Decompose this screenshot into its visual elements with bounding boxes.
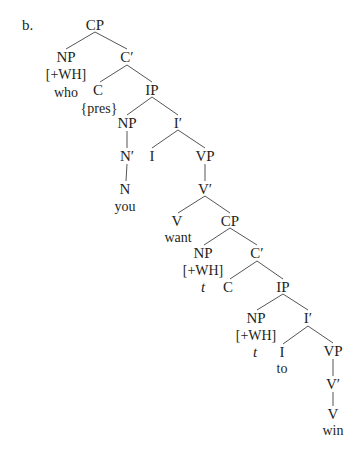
tree-branch [127,97,152,115]
tree-node-you: you [115,200,136,214]
tree-node-vp2: VP [323,344,342,359]
tree-node-win: win [323,424,344,438]
tree-node-ibar2: I′ [304,311,312,326]
tree-branch [178,196,205,213]
tree-node-wh1: [+WH] [46,68,87,82]
tree-node-nbar: N′ [120,149,134,164]
tree-node-ip2: IP [276,280,289,295]
tree-node-cbar1: C′ [120,50,133,65]
tree-node-np1: NP [56,50,75,65]
tree-node-np4: NP [246,311,265,326]
tree-branch [257,294,283,310]
tree-branch [127,65,152,82]
tree-node-vbar1: V′ [198,182,212,197]
tree-node-wh2: [+WH] [183,264,224,278]
tree-node-pres: {pres} [81,102,118,116]
tree-node-v2: V [328,407,339,422]
tree-node-vp1: VP [195,149,214,164]
tree-node-cp1: CP [86,18,104,33]
tree-node-t2: t [253,345,257,360]
tree-node-ip1: IP [145,83,158,98]
tree-branch [100,65,127,82]
tree-node-cp2: CP [221,214,239,229]
tree-branch [308,326,333,343]
tree-branch [205,196,230,213]
tree-node-ibar1: I′ [174,116,182,131]
tree-node-i1: I [150,149,155,164]
tree-node-n: N [120,182,131,197]
tree-node-to: to [277,362,288,376]
tree-branch [95,32,127,49]
tree-branch [152,130,178,148]
tree-node-t1: t [201,280,205,295]
tree-branch [283,294,308,310]
tree-branch [66,32,95,49]
tree-node-cbar2: C′ [250,246,263,261]
tree-node-np3: NP [193,246,212,261]
tree-node-vbar2: V′ [326,377,340,392]
tree-branch [152,97,178,115]
tree-node-c1: C [93,83,103,98]
tree-branch [230,261,257,279]
tree-node-c2: C [223,280,233,295]
tree-node-want: want [164,231,191,245]
tree-branch [257,261,283,279]
tree-node-who: who [54,86,78,100]
tree-branch [283,326,308,344]
tree-branch [204,228,230,245]
tree-node-i2: I [280,345,285,360]
tree-node-v1: V [172,214,183,229]
tree-branch [178,130,205,148]
tree-branch [126,164,127,181]
tree-branch [230,228,257,245]
tree-node-wh3: [+WH] [236,329,277,343]
tree-node-np2: NP [117,116,136,131]
